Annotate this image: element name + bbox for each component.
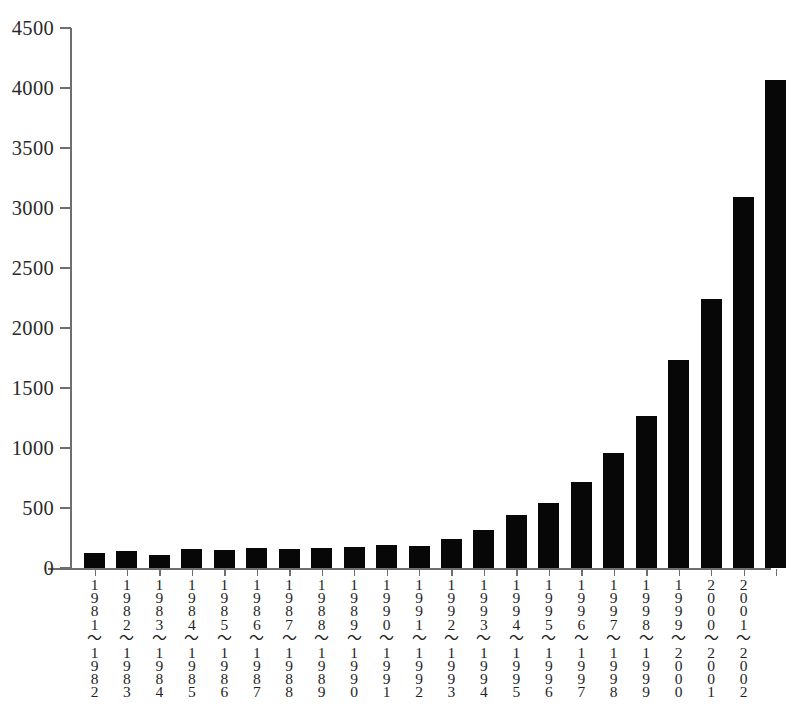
y-axis-tick: [60, 447, 71, 449]
bar: [344, 547, 365, 568]
x-axis-tick-label: 1998〜1999: [633, 578, 659, 699]
x-axis-label-char: 6: [211, 685, 237, 698]
x-axis-tick: [516, 569, 517, 576]
x-axis-tick-label: 1990〜1991: [374, 578, 400, 699]
y-axis-tick: [60, 507, 71, 509]
x-axis-tick-label: 1988〜1989: [309, 578, 335, 699]
bar: [279, 549, 300, 568]
y-axis-tick-label: 2000: [12, 318, 54, 339]
bar: [116, 551, 137, 568]
x-axis-label-char: 4: [146, 685, 172, 698]
x-axis-tick-label: 1999〜2000: [666, 578, 692, 699]
x-axis-label-char: 1: [698, 685, 724, 698]
x-axis-tick-label: 1992〜1993: [438, 578, 464, 699]
y-axis-tick: [60, 327, 71, 329]
x-axis-label-char: 2: [406, 685, 432, 698]
y-axis-line: [70, 28, 72, 569]
x-axis-label-char: 7: [276, 618, 302, 631]
x-axis-label-char: 6: [244, 618, 270, 631]
y-axis-tick: [60, 567, 71, 569]
x-axis-tick: [614, 569, 615, 576]
bar: [636, 416, 657, 568]
y-axis-tick-label: 1500: [12, 378, 54, 399]
x-axis-tick: [322, 569, 323, 576]
x-axis-line: [48, 568, 771, 570]
x-axis-label-char: 8: [276, 685, 302, 698]
x-axis-tick: [744, 569, 745, 576]
bar: [733, 197, 754, 568]
x-axis-tick: [387, 569, 388, 576]
x-axis-tick: [484, 569, 485, 576]
y-axis-tick: [60, 207, 71, 209]
bar-chart: 050010001500200025003000350040004500 198…: [0, 0, 789, 714]
x-axis-label-char: 7: [568, 685, 594, 698]
x-axis-tick: [646, 569, 647, 576]
y-axis-tick: [60, 87, 71, 89]
bar: [149, 555, 170, 568]
x-axis-tick-label: 1984〜1985: [179, 578, 205, 699]
y-axis-tick-label: 500: [22, 498, 54, 519]
x-axis-tick: [192, 569, 193, 576]
x-axis-label-char: 5: [536, 618, 562, 631]
x-axis-tick-label: 1986〜1987: [244, 578, 270, 699]
x-axis-tick: [776, 569, 777, 576]
x-axis-tick: [549, 569, 550, 576]
x-axis-label-char: 3: [471, 618, 497, 631]
x-axis-label-char: 2: [438, 618, 464, 631]
bar: [668, 360, 689, 568]
x-axis-tick-label: 1982〜1983: [114, 578, 140, 699]
x-axis-label-char: 9: [666, 618, 692, 631]
x-axis-tick: [679, 569, 680, 576]
x-axis-label-char: 6: [568, 618, 594, 631]
y-axis-tick-label: 4000: [12, 78, 54, 99]
bar: [571, 482, 592, 568]
x-axis-label-char: 0: [341, 685, 367, 698]
x-axis-tick-label: 2001〜2002: [731, 578, 757, 699]
bar: [538, 503, 559, 568]
bar: [376, 545, 397, 568]
x-axis-label-char: 4: [503, 618, 529, 631]
bar: [765, 80, 786, 568]
x-axis-tick-label: 1995〜1996: [536, 578, 562, 699]
x-axis-tick-label: 1997〜1998: [601, 578, 627, 699]
x-axis-tick-label: 1994〜1995: [503, 578, 529, 699]
bar: [409, 546, 430, 568]
x-axis-tick-label: 1983〜1984: [146, 578, 172, 699]
x-axis-label-char: 1: [731, 618, 757, 631]
x-axis-tick: [159, 569, 160, 576]
x-axis-tick: [257, 569, 258, 576]
x-axis-label-char: 7: [601, 618, 627, 631]
x-axis-label-char: 3: [114, 685, 140, 698]
y-axis-tick-label: 0: [43, 558, 54, 579]
x-axis-tick: [581, 569, 582, 576]
x-axis-tick: [289, 569, 290, 576]
x-axis-label-char: 5: [179, 685, 205, 698]
x-axis-label-char: 8: [601, 685, 627, 698]
y-axis-tick-label: 2500: [12, 258, 54, 279]
x-axis-label-char: 1: [374, 685, 400, 698]
x-axis-tick-label: 1981〜1982: [82, 578, 108, 699]
x-axis-label-char: 3: [438, 685, 464, 698]
bar: [311, 548, 332, 568]
x-axis-tick: [354, 569, 355, 576]
x-axis-label-char: 2: [82, 685, 108, 698]
x-axis-label-char: 0: [666, 685, 692, 698]
x-axis-label-char: 0: [698, 618, 724, 631]
x-axis-label-char: 9: [341, 618, 367, 631]
x-axis-tick-label: 1991〜1992: [406, 578, 432, 699]
bar: [603, 453, 624, 568]
x-axis-label-char: 7: [244, 685, 270, 698]
x-axis-tick-label: 1985〜1986: [211, 578, 237, 699]
y-axis-tick-label: 3500: [12, 138, 54, 159]
y-axis-tick-label: 3000: [12, 198, 54, 219]
x-axis-tick: [419, 569, 420, 576]
x-axis-label-char: 0: [374, 618, 400, 631]
x-axis-label-char: 3: [146, 618, 172, 631]
x-axis-tick-label: 2000〜2001: [698, 578, 724, 699]
bar: [84, 553, 105, 568]
y-axis-tick: [60, 147, 71, 149]
x-axis-tick: [451, 569, 452, 576]
x-axis-tick: [127, 569, 128, 576]
x-axis-tick-label: 1993〜1994: [471, 578, 497, 699]
x-axis-tick: [95, 569, 96, 576]
